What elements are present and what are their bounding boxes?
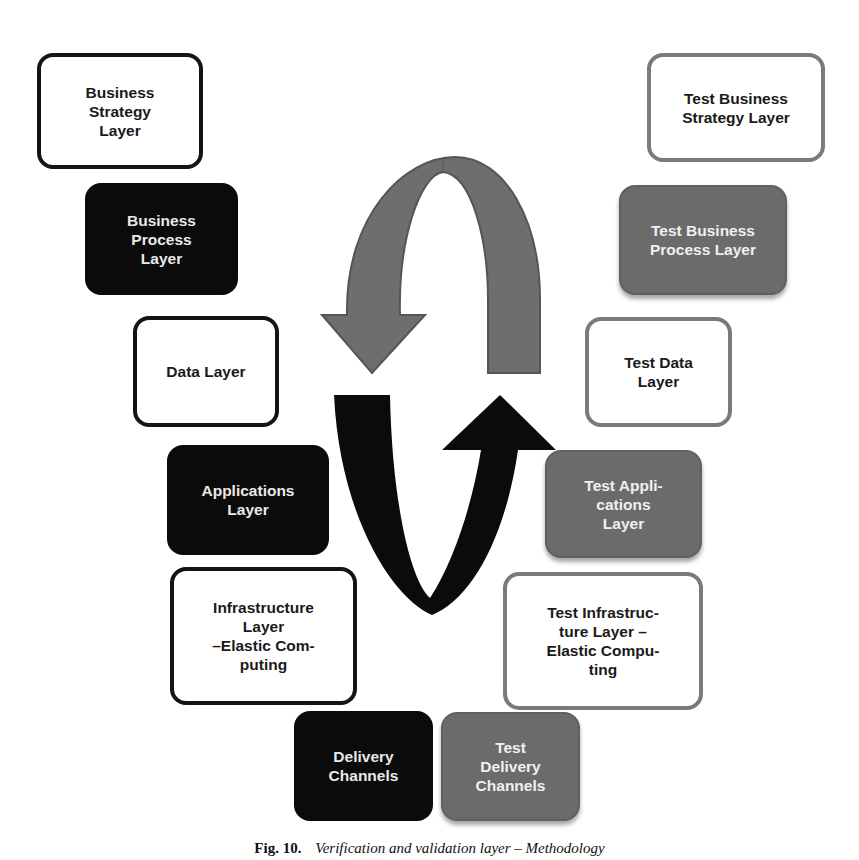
delivery-channels-label: Delivery Channels xyxy=(329,747,399,785)
test-infrastructure-layer-box: Test Infrastruc- ture Layer – Elastic Co… xyxy=(503,572,703,710)
test-applications-layer-box: Test Appli- cations Layer xyxy=(545,450,702,558)
infrastructure-layer-box: Infrastructure Layer –Elastic Com- putin… xyxy=(170,567,357,705)
business-process-layer-box: Business Process Layer xyxy=(85,183,238,295)
test-infrastructure-layer-label: Test Infrastruc- ture Layer – Elastic Co… xyxy=(547,603,660,679)
figure-number: Fig. 10. xyxy=(254,840,301,856)
test-business-strategy-layer-label: Test Business Strategy Layer xyxy=(682,89,790,127)
test-delivery-channels-label: Test Delivery Channels xyxy=(476,738,546,795)
data-layer-box: Data Layer xyxy=(133,316,279,427)
test-business-strategy-layer-box: Test Business Strategy Layer xyxy=(647,53,825,162)
applications-layer-label: Applications Layer xyxy=(201,481,294,519)
test-applications-layer-label: Test Appli- cations Layer xyxy=(584,476,662,533)
test-data-layer-box: Test Data Layer xyxy=(585,317,732,427)
data-layer-label: Data Layer xyxy=(166,362,245,381)
business-strategy-layer-label: Business Strategy Layer xyxy=(86,83,155,140)
infrastructure-layer-label: Infrastructure Layer –Elastic Com- putin… xyxy=(212,598,315,674)
figure-caption: Fig. 10. Verification and validation lay… xyxy=(0,840,859,857)
test-business-process-layer-box: Test Business Process Layer xyxy=(619,185,787,295)
figure-caption-text: Verification and validation layer – Meth… xyxy=(315,840,605,856)
test-business-process-layer-label: Test Business Process Layer xyxy=(650,221,756,259)
business-strategy-layer-box: Business Strategy Layer xyxy=(37,53,203,169)
delivery-channels-box: Delivery Channels xyxy=(294,711,433,821)
test-delivery-channels-box: Test Delivery Channels xyxy=(441,712,580,821)
gray-arch-arrow-icon xyxy=(322,157,540,373)
applications-layer-box: Applications Layer xyxy=(167,445,329,555)
test-data-layer-label: Test Data Layer xyxy=(624,353,693,391)
business-process-layer-label: Business Process Layer xyxy=(127,211,196,268)
